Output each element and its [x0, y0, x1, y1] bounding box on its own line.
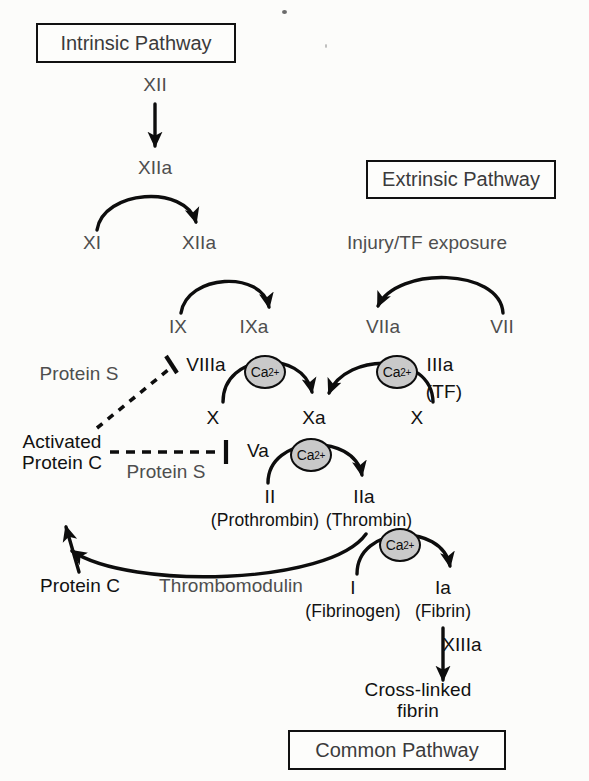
prothrombin-label: (Prothrombin) — [211, 511, 319, 531]
protein-c-label: Protein C — [40, 575, 120, 596]
factor-xii-label: XII — [143, 74, 167, 95]
factor-x-left-label: X — [207, 407, 220, 428]
cascade-connectors — [0, 0, 589, 781]
ca-ion-prothrombinase: Ca2+ — [290, 438, 332, 472]
ca-ion-extrinsic-tenase: Ca2+ — [376, 355, 418, 389]
factor-x-right-label: X — [411, 407, 424, 428]
injury-tf-exposure-label: Injury/TF exposure — [347, 232, 507, 253]
cross-linked-fibrin-label: Cross-linked fibrin — [365, 679, 472, 722]
inhibition-bar-viiia — [166, 356, 177, 373]
calcium-charge: 2+ — [314, 450, 325, 461]
factor-xa-label: Xa — [302, 407, 325, 428]
protein-s-upper-label: Protein S — [39, 363, 118, 384]
intrinsic-pathway-box: Intrinsic Pathway — [36, 23, 236, 63]
factor-ia-label: Ia — [435, 577, 451, 598]
common-pathway-box: Common Pathway — [288, 730, 506, 770]
factor-ix-label: IX — [169, 316, 187, 337]
arc-thrombomodulin-feedback — [72, 534, 366, 577]
arrow-protein-c-activation — [66, 527, 79, 572]
factor-va-label: Va — [247, 440, 269, 461]
calcium-charge: 2+ — [403, 540, 414, 551]
factor-ixa-label: IXa — [240, 316, 269, 337]
arc-ix-to-ixa — [181, 281, 269, 313]
fibrin-label: (Fibrin) — [415, 602, 471, 622]
factor-i-label: I — [350, 577, 355, 598]
thrombomodulin-label: Thrombomodulin — [159, 575, 303, 596]
calcium-symbol: Ca — [386, 537, 404, 553]
calcium-charge: 2+ — [400, 367, 411, 378]
factor-xi-label: XI — [83, 232, 101, 253]
calcium-charge: 2+ — [268, 367, 279, 378]
fibrinogen-label: (Fibrinogen) — [305, 602, 401, 622]
coagulation-cascade-diagram: Intrinsic Pathway Extrinsic Pathway Comm… — [0, 0, 589, 781]
activated-protein-c-label: Activated Protein C — [22, 431, 102, 474]
arc-vii-to-viia — [378, 278, 503, 313]
factor-viia-label: VIIa — [366, 316, 400, 337]
ca-ion-fibrin-formation: Ca2+ — [379, 528, 421, 562]
factor-ii-label: II — [265, 486, 276, 507]
factor-xiia-activated-label: XIIa — [138, 157, 172, 178]
extrinsic-pathway-box: Extrinsic Pathway — [366, 160, 556, 199]
factor-xiiia-label: XIIIa — [442, 634, 482, 655]
protein-s-lower-label: Protein S — [126, 461, 205, 482]
arc-xi-to-xiia — [97, 197, 196, 230]
calcium-symbol: Ca — [297, 447, 315, 463]
factor-iia-label: IIa — [353, 486, 374, 507]
calcium-symbol: Ca — [251, 364, 269, 380]
ca-ion-intrinsic-tenase: Ca2+ — [244, 355, 286, 389]
factor-viiia-label: VIIIa — [186, 354, 226, 375]
factor-iiia-label: IIIa — [427, 354, 454, 375]
calcium-symbol: Ca — [383, 364, 401, 380]
factor-xiia-second-label: XIIa — [182, 232, 216, 253]
factor-vii-label: VII — [490, 316, 514, 337]
tissue-factor-note-label: (TF) — [426, 381, 462, 402]
